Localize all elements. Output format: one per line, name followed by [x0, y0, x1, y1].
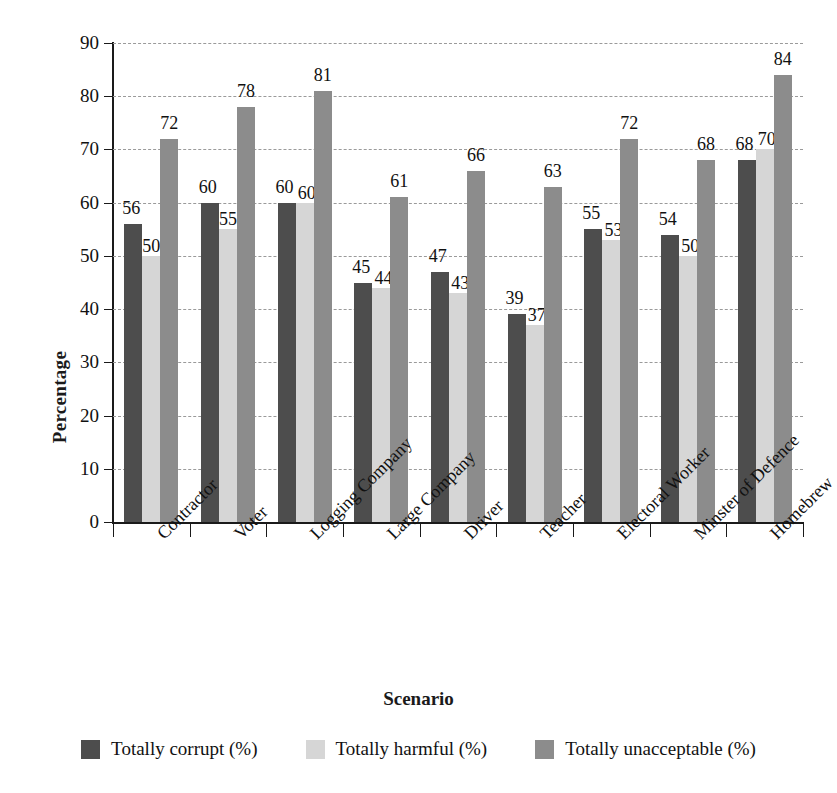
- bar-chart: Percentage 0102030405060708090 565072605…: [0, 0, 837, 793]
- bar-value-label: 60: [275, 178, 293, 196]
- y-tick-mark: [104, 416, 113, 417]
- bar-wrapper: 66: [467, 43, 485, 522]
- y-tick-mark: [104, 362, 113, 363]
- bar-wrapper: 72: [620, 43, 638, 522]
- bar-value-label: 60: [199, 178, 217, 196]
- legend-item[interactable]: Totally unacceptable (%): [535, 738, 756, 760]
- bar[interactable]: 56: [124, 224, 142, 522]
- legend-color-swatch: [535, 740, 554, 759]
- bar-group: 474366: [420, 43, 497, 522]
- bar-group: 606081: [266, 43, 343, 522]
- y-tick-label: 20: [80, 405, 99, 427]
- bar[interactable]: 50: [142, 256, 160, 522]
- bar-group: 393763: [496, 43, 573, 522]
- bar-wrapper: 47: [431, 43, 449, 522]
- legend-label: Totally corrupt (%): [111, 738, 257, 760]
- bar[interactable]: 55: [584, 229, 602, 522]
- bar-value-label: 68: [735, 135, 753, 153]
- bar[interactable]: 39: [508, 314, 526, 522]
- bar[interactable]: 53: [602, 240, 620, 522]
- y-tick-label: 90: [80, 32, 99, 54]
- bar-value-label: 66: [467, 146, 485, 164]
- bar[interactable]: 60: [296, 203, 314, 522]
- legend-item[interactable]: Totally harmful (%): [306, 738, 488, 760]
- y-tick-mark: [104, 96, 113, 97]
- bar-group: 545068: [650, 43, 727, 522]
- bar-group: 565072: [113, 43, 190, 522]
- bar-group: 555372: [573, 43, 650, 522]
- chart-legend: Totally corrupt (%)Totally harmful (%)To…: [0, 738, 837, 760]
- bar-wrapper: 81: [314, 43, 332, 522]
- y-tick-label: 10: [80, 458, 99, 480]
- legend-color-swatch: [81, 740, 100, 759]
- bar-value-label: 45: [352, 258, 370, 276]
- bar-value-label: 55: [582, 204, 600, 222]
- legend-color-swatch: [306, 740, 325, 759]
- bar-wrapper: 55: [584, 43, 602, 522]
- bar[interactable]: 78: [237, 107, 255, 522]
- y-tick-label: 40: [80, 298, 99, 320]
- x-tick-separator: [803, 523, 804, 537]
- bar[interactable]: 72: [620, 139, 638, 522]
- bar[interactable]: 60: [201, 203, 219, 522]
- bar-wrapper: 39: [508, 43, 526, 522]
- bar-value-label: 55: [219, 210, 237, 228]
- x-axis-title: Scenario: [0, 688, 837, 710]
- bar-value-label: 72: [620, 114, 638, 132]
- bar-wrapper: 56: [124, 43, 142, 522]
- x-tick-separator: [266, 523, 267, 537]
- y-tick-mark: [104, 256, 113, 257]
- x-tick-separator: [650, 523, 651, 537]
- bar-wrapper: 72: [160, 43, 178, 522]
- y-tick-label: 80: [80, 85, 99, 107]
- bar[interactable]: 55: [219, 229, 237, 522]
- bar-wrapper: 55: [219, 43, 237, 522]
- legend-item[interactable]: Totally corrupt (%): [81, 738, 257, 760]
- bar[interactable]: 61: [390, 197, 408, 522]
- x-tick-separator: [573, 523, 574, 537]
- bar-value-label: 68: [697, 135, 715, 153]
- y-tick-label: 30: [80, 351, 99, 373]
- bar[interactable]: 72: [160, 139, 178, 522]
- bar-wrapper: 37: [526, 43, 544, 522]
- bar-group: 605578: [190, 43, 267, 522]
- bar-value-label: 72: [160, 114, 178, 132]
- bar[interactable]: 37: [526, 325, 544, 522]
- y-tick-mark: [104, 43, 113, 44]
- bar-wrapper: 53: [602, 43, 620, 522]
- y-axis-title: Percentage: [49, 350, 71, 442]
- bar-value-label: 63: [544, 162, 562, 180]
- y-tick-mark: [104, 309, 113, 310]
- bar[interactable]: 60: [278, 203, 296, 522]
- x-tick-separator: [496, 523, 497, 537]
- x-tick-separator: [420, 523, 421, 537]
- bar-wrapper: 54: [661, 43, 679, 522]
- x-tick-separator: [726, 523, 727, 537]
- bar-value-label: 50: [142, 237, 160, 255]
- y-tick-mark: [104, 149, 113, 150]
- bar[interactable]: 81: [314, 91, 332, 522]
- x-tick-separator: [113, 523, 114, 537]
- legend-label: Totally harmful (%): [336, 738, 488, 760]
- bar-value-label: 54: [659, 210, 677, 228]
- y-tick-label: 60: [80, 192, 99, 214]
- bar-wrapper: 63: [544, 43, 562, 522]
- bar-wrapper: 60: [296, 43, 314, 522]
- bar-wrapper: 60: [201, 43, 219, 522]
- legend-label: Totally unacceptable (%): [565, 738, 756, 760]
- bar-value-label: 39: [505, 289, 523, 307]
- y-tick-label: 0: [90, 511, 100, 533]
- bar-value-label: 84: [774, 50, 792, 68]
- bar-value-label: 56: [122, 199, 140, 217]
- bar-wrapper: 78: [237, 43, 255, 522]
- bar-wrapper: 68: [738, 43, 756, 522]
- y-tick-mark: [104, 522, 113, 523]
- y-tick-mark: [104, 203, 113, 204]
- bar-value-label: 81: [314, 66, 332, 84]
- bar-value-label: 61: [390, 172, 408, 190]
- bar[interactable]: 63: [544, 187, 562, 522]
- bar-wrapper: 60: [278, 43, 296, 522]
- y-tick-label: 50: [80, 245, 99, 267]
- bar-value-label: 78: [237, 82, 255, 100]
- bar-value-label: 47: [429, 247, 447, 265]
